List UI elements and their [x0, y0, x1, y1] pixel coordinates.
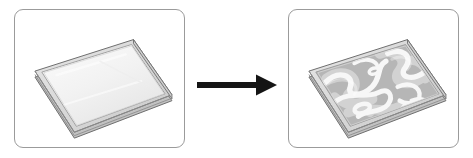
panel-before: Before Blank flat rectangular plate with… — [14, 9, 185, 148]
transformation-arrow: right — [196, 74, 278, 96]
blank-plate-illustration — [15, 10, 184, 147]
figure-root: Plate surface transformation A blank fla… — [0, 0, 473, 158]
panel-after: After Same flat plate with a swirled whi… — [288, 9, 459, 148]
arrow-shape — [197, 75, 277, 96]
patterned-plate-illustration — [289, 10, 458, 147]
arrow-icon — [196, 74, 278, 96]
